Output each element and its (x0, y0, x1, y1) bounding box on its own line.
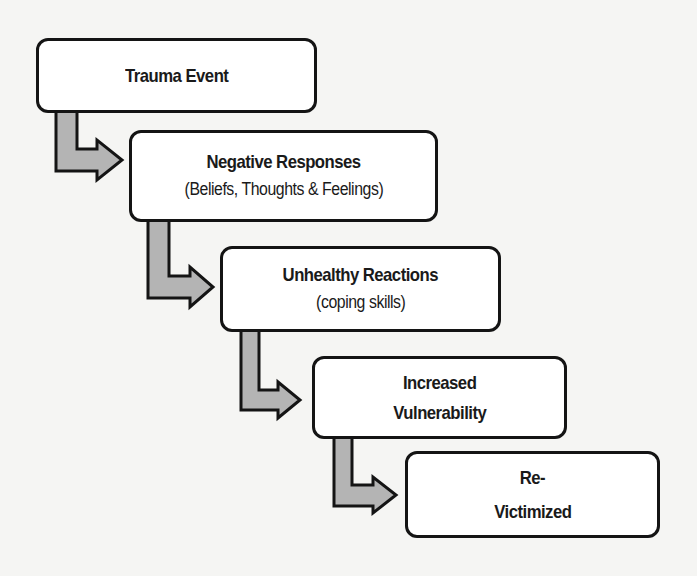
step-box-increased-vulnerability: Increased Vulnerability (312, 356, 567, 439)
step-box-trauma-event: Trauma Event (36, 38, 317, 113)
step-title-line2: Victimized (494, 499, 571, 525)
step-title-line2: Vulnerability (393, 400, 486, 426)
elbow-arrow-icon (241, 330, 300, 418)
step-title: Increased (403, 370, 476, 396)
step-box-unhealthy-reactions: Unhealthy Reactions (coping skills) (220, 246, 501, 332)
trauma-cycle-diagram: Trauma Event Negative Responses (Beliefs… (0, 0, 697, 576)
step-title: Trauma Event (125, 63, 228, 89)
elbow-arrow-icon (334, 437, 396, 513)
step-title: Re- (520, 465, 545, 491)
step-box-negative-responses: Negative Responses (Beliefs, Thoughts & … (129, 130, 438, 222)
step-box-re-victimized: Re- Victimized (405, 451, 660, 538)
step-title: Negative Responses (206, 149, 360, 175)
step-subtitle: (coping skills) (316, 288, 405, 316)
step-subtitle: (Beliefs, Thoughts & Feelings) (184, 175, 383, 203)
elbow-arrow-icon (148, 220, 213, 307)
step-title: Unhealthy Reactions (283, 262, 438, 288)
elbow-arrow-icon (56, 110, 122, 180)
